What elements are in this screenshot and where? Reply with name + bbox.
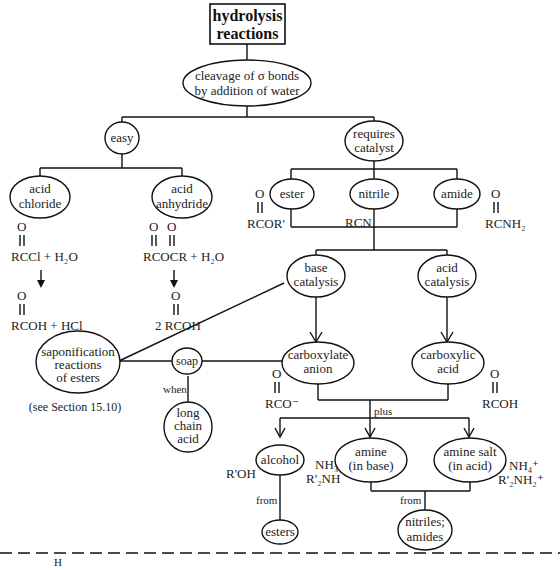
svg-text:alcohol: alcohol [261, 452, 300, 467]
svg-text:easy: easy [110, 130, 134, 145]
node-base-catalysis: base catalysis [287, 255, 345, 297]
amine-base-formula: NH₃ R'₂NH [306, 457, 340, 486]
svg-text:base: base [304, 260, 327, 275]
node-amide: amide [434, 179, 480, 209]
svg-text:O: O [255, 186, 264, 201]
svg-text:ester: ester [280, 186, 305, 201]
svg-text:anion: anion [304, 361, 333, 376]
edge-label-from-alcohol: from [256, 494, 278, 506]
svg-text:amine salt: amine salt [443, 444, 496, 459]
node-esters: esters [262, 520, 298, 544]
svg-text:anhydride: anhydride [156, 196, 208, 211]
carboxylic-formula: O RCOH [482, 366, 518, 411]
node-easy: easy [105, 122, 139, 154]
node-soap: soap [172, 348, 202, 374]
svg-text:O: O [491, 186, 500, 201]
svg-text:esters: esters [265, 524, 295, 539]
svg-text:R'₂NH: R'₂NH [306, 471, 340, 486]
svg-text:cleavage of σ bonds: cleavage of σ bonds [195, 68, 299, 83]
node-amine-salt: amine salt (in acid) [434, 438, 506, 482]
formula-rcocr: RCOCR + H₂O [143, 249, 224, 264]
see-section-note: (see Section 15.10) [29, 400, 121, 414]
formula-rccl: RCCl + H₂O [11, 249, 78, 264]
svg-text:R'₂NH₂⁺: R'₂NH₂⁺ [498, 472, 544, 487]
anhydride-reaction: O O RCOCR + H₂O O 2 RCOH [143, 219, 224, 333]
svg-text:catalysis: catalysis [425, 274, 470, 289]
svg-text:amides: amides [407, 529, 444, 544]
node-cleavage: cleavage of σ bonds by addition of water [183, 60, 311, 106]
node-long-chain-acid: long chain acid [164, 402, 212, 452]
node-amine-base: amine (in base) [335, 438, 407, 482]
amide-formula: O RCNH₂ [485, 186, 526, 231]
title-box: hydrolysis reactions [210, 4, 285, 44]
svg-text:RCOR': RCOR' [247, 216, 285, 231]
svg-text:O: O [171, 288, 180, 303]
node-acid-anhydride: acid anhydride [152, 176, 212, 218]
svg-text:O: O [17, 288, 26, 303]
svg-text:of esters: of esters [56, 370, 100, 385]
svg-text:soap: soap [176, 354, 198, 368]
svg-text:carboxylate: carboxylate [288, 347, 349, 362]
svg-text:acid: acid [171, 181, 193, 196]
svg-text:acid: acid [29, 181, 51, 196]
svg-text:requires: requires [353, 126, 395, 141]
node-carboxylic-acid: carboxylic acid [412, 342, 484, 384]
svg-text:carboxylic: carboxylic [421, 347, 476, 362]
node-ester: ester [270, 179, 314, 209]
svg-text:by addition of water: by addition of water [194, 83, 300, 98]
svg-text:(in acid): (in acid) [448, 458, 492, 473]
title-line-1: hydrolysis [213, 7, 283, 25]
svg-text:nitriles;: nitriles; [405, 514, 445, 529]
svg-text:RCOH: RCOH [482, 396, 518, 411]
hydrolysis-diagram: hydrolysis reactions cleavage of σ bonds… [0, 0, 560, 570]
svg-text:O: O [17, 219, 26, 234]
svg-text:catalysis: catalysis [294, 274, 339, 289]
svg-text:O: O [490, 366, 499, 381]
nitrile-formula: RCN [345, 215, 372, 230]
svg-text:acid: acid [177, 431, 199, 446]
svg-text:amide: amide [441, 186, 473, 201]
node-saponification: saponification reactions of esters [36, 331, 120, 393]
edge-label-from-amine: from [400, 494, 422, 506]
alcohol-formula: R'OH [226, 466, 256, 481]
svg-text:RCO⁻: RCO⁻ [265, 396, 299, 411]
svg-text:(in base): (in base) [348, 458, 393, 473]
edge-label-when: when [163, 383, 187, 395]
svg-text:acid: acid [437, 361, 459, 376]
node-carboxylate-anion: carboxylate anion [282, 342, 354, 384]
node-alcohol: alcohol [256, 445, 304, 475]
formula-2rcoh: 2 RCOH [155, 318, 201, 333]
svg-text:O: O [149, 219, 158, 234]
svg-text:catalyst: catalyst [354, 140, 394, 155]
svg-text:amine: amine [355, 444, 387, 459]
svg-text:chloride: chloride [19, 196, 62, 211]
acid-chloride-reaction: O RCCl + H₂O O RCOH + HCl [11, 219, 83, 333]
svg-text:RCNH₂: RCNH₂ [485, 216, 526, 231]
node-acid-catalysis: acid catalysis [418, 255, 476, 297]
svg-text:nitrile: nitrile [358, 186, 389, 201]
footer-h: H [54, 556, 62, 568]
svg-text:O: O [167, 219, 176, 234]
node-requires-catalyst: requires catalyst [345, 121, 403, 161]
node-nitriles-amides: nitriles; amides [398, 510, 452, 550]
edge-label-plus: plus [374, 405, 392, 417]
node-nitrile: nitrile [350, 179, 398, 209]
svg-text:NH₃: NH₃ [315, 457, 338, 472]
svg-text:O: O [272, 366, 281, 381]
svg-text:NH₄⁺: NH₄⁺ [509, 458, 539, 473]
svg-text:acid: acid [436, 260, 458, 275]
node-acid-chloride: acid chloride [10, 176, 70, 218]
title-line-2: reactions [217, 25, 279, 42]
